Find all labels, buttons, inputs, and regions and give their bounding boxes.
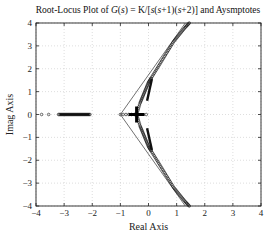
x-axis-label: Real Axis (129, 221, 168, 232)
y-axis-label: Imag Axis (4, 94, 15, 135)
x-tick-label: 0 (146, 208, 151, 218)
breakaway-marker (129, 107, 145, 123)
x-tick-label: −1 (116, 208, 126, 218)
root-locus-chart: Root-Locus Plot of G(s) = K/[s(s+1)(s+2)… (0, 0, 267, 242)
x-tick-label: 3 (231, 208, 236, 218)
x-tick-label: −4 (31, 208, 41, 218)
axis-ticks: −4−3−2−101234−4−3−2−101234 (22, 18, 263, 218)
y-tick-label: 1 (28, 87, 33, 97)
y-tick-label: 0 (28, 110, 33, 120)
x-tick-label: −3 (59, 208, 69, 218)
y-tick-label: −1 (22, 132, 32, 142)
y-tick-label: −4 (22, 201, 32, 211)
y-tick-label: −2 (22, 155, 32, 165)
chart-title: Root-Locus Plot of G(s) = K/[s(s+1)(s+2)… (36, 5, 261, 16)
x-tick-label: −2 (87, 208, 97, 218)
y-tick-label: 4 (28, 18, 33, 28)
y-tick-label: 2 (28, 64, 33, 74)
x-tick-label: 4 (259, 208, 264, 218)
y-tick-label: 3 (28, 41, 33, 51)
x-tick-label: 1 (174, 208, 179, 218)
x-tick-label: 2 (203, 208, 208, 218)
y-tick-label: −3 (22, 178, 32, 188)
